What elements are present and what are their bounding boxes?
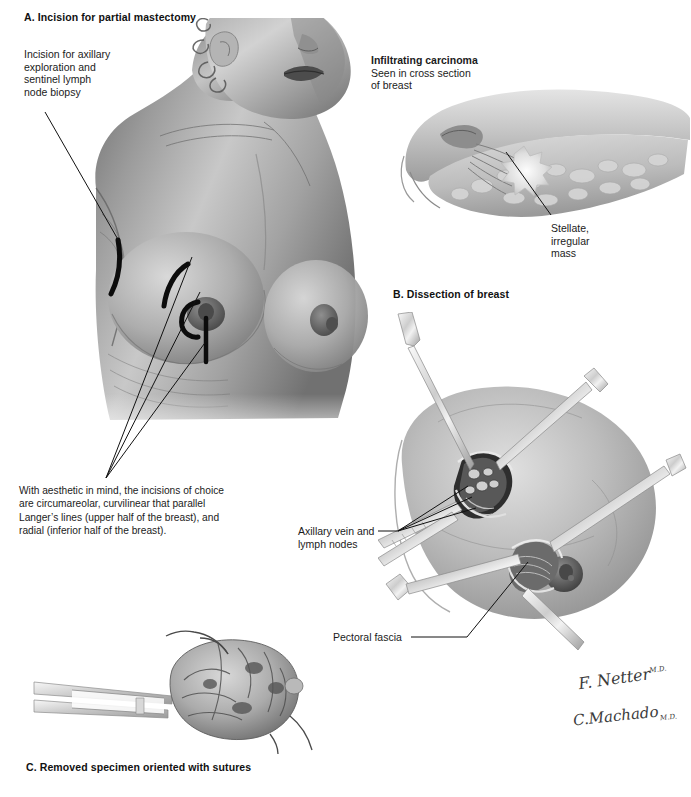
label-stellate-mass-line1: Stellate, xyxy=(551,222,641,235)
infiltrating-carcinoma-subtitle-line1: Seen in cross section xyxy=(371,67,521,80)
panel-a-title: A. Incision for partial mastectomy xyxy=(24,11,196,23)
panel-b-title: B. Dissection of breast xyxy=(393,288,509,300)
label-pectoral-fascia: Pectoral fascia xyxy=(333,631,402,644)
panel-c-specimen-illustration xyxy=(32,624,322,754)
signature-netter-name: F. Netter xyxy=(577,664,651,693)
label-stellate-mass-line3: mass xyxy=(551,247,641,260)
label-axillary-incision-line3: sentinel lymph xyxy=(24,73,164,86)
infiltrating-carcinoma-subtitle-line2: of breast xyxy=(371,79,521,92)
label-axillary-vein-lymph-nodes: Axillary vein and lymph nodes xyxy=(298,525,408,550)
label-axillary-incision-line2: exploration and xyxy=(24,61,164,74)
signature-machado-suffix: M.D. xyxy=(660,713,678,723)
label-stellate-mass: Stellate, irregular mass xyxy=(551,222,641,260)
illustration-plate: A. Incision for partial mastectomy Incis… xyxy=(0,0,691,797)
panel-c-title: C. Removed specimen oriented with suture… xyxy=(26,761,251,773)
panel-a-caption-line1: With aesthetic in mind, the incisions of… xyxy=(19,484,279,497)
panel-a-caption-line3: Langer’s lines (upper half of the breast… xyxy=(19,511,279,524)
panel-a-caption-line4: radial (inferior half of the breast). xyxy=(19,524,279,537)
signature-machado-name: C.Machado xyxy=(572,703,659,730)
infiltrating-carcinoma-title: Infiltrating carcinoma xyxy=(371,54,521,67)
infiltrating-carcinoma-cross-section-illustration xyxy=(396,78,691,238)
signature-netter-suffix: M.D. xyxy=(649,665,667,675)
label-axillary-incision: Incision for axillary exploration and se… xyxy=(24,48,164,98)
label-axillary-vein-line1: Axillary vein and xyxy=(298,525,408,538)
signature-machado: C.MachadoM.D. xyxy=(572,701,677,732)
panel-a-caption-line2: are circumareolar, curvilinear that para… xyxy=(19,497,279,510)
label-axillary-incision-line4: node biopsy xyxy=(24,86,164,99)
label-pectoral-fascia-text: Pectoral fascia xyxy=(333,631,402,644)
label-axillary-vein-line2: lymph nodes xyxy=(298,538,408,551)
panel-a-caption: With aesthetic in mind, the incisions of… xyxy=(19,484,279,538)
label-stellate-mass-line2: irregular xyxy=(551,235,641,248)
label-axillary-incision-line1: Incision for axillary xyxy=(24,48,164,61)
panel-b-dissection-illustration xyxy=(378,312,691,662)
signature-netter: F. NetterM.D. xyxy=(577,662,668,693)
infiltrating-carcinoma-label: Infiltrating carcinoma Seen in cross sec… xyxy=(371,54,521,92)
